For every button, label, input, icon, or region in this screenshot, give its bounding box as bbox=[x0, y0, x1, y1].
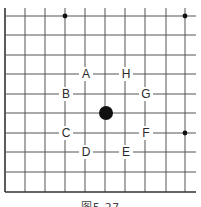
board-grid bbox=[5, 8, 196, 192]
point-label-h: H bbox=[119, 67, 133, 81]
point-label-e: E bbox=[119, 145, 133, 159]
star-point-icon bbox=[183, 14, 188, 19]
star-point-icon bbox=[183, 131, 188, 136]
go-board bbox=[0, 0, 201, 207]
black-stone bbox=[99, 106, 113, 120]
figure-caption: 图5-27 bbox=[0, 198, 201, 207]
point-label-g: G bbox=[139, 87, 153, 101]
point-label-a: A bbox=[79, 67, 93, 81]
point-label-c: C bbox=[59, 126, 73, 140]
point-label-f: F bbox=[139, 126, 153, 140]
point-label-b: B bbox=[59, 87, 73, 101]
point-label-d: D bbox=[79, 145, 93, 159]
star-point-icon bbox=[63, 14, 68, 19]
